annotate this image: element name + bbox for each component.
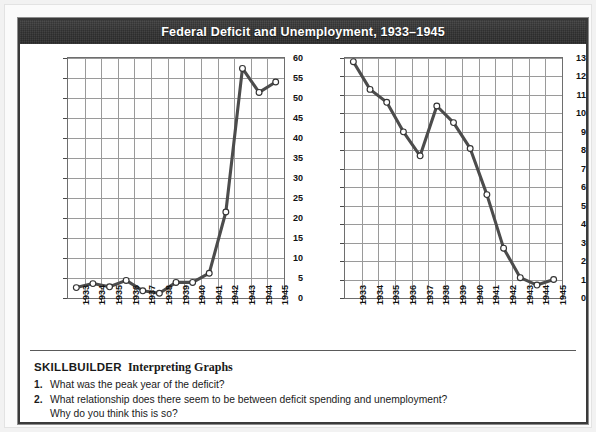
y-axis-tick-mark	[63, 78, 67, 79]
data-point-marker	[223, 209, 229, 215]
skillbuilder-section: SKILLBUILDERInterpreting Graphs 1. What …	[34, 360, 576, 422]
figure-page: Federal Deficit and Unemployment, 1933–1…	[0, 0, 596, 432]
x-axis-tick-label: 1942	[508, 285, 518, 305]
y-axis-tick-label: 60	[264, 53, 303, 63]
y-axis-tick-mark	[340, 113, 344, 114]
y-axis-tick-label: 35	[264, 153, 303, 163]
y-axis-tick-mark	[340, 95, 344, 96]
data-series	[68, 58, 284, 298]
data-point-marker	[123, 278, 129, 284]
chart-federal-deficit: Federal Deficit (in billions of dollars)…	[20, 44, 303, 340]
y-axis-tick-label: 8	[553, 145, 586, 155]
x-axis-tick-label: 1945	[280, 285, 290, 305]
y-axis-tick-mark	[63, 58, 67, 59]
charts-region: Federal Deficit (in billions of dollars)…	[20, 44, 586, 340]
x-axis-tick-label: 1935	[391, 285, 401, 305]
y-axis-tick-mark	[63, 158, 67, 159]
y-axis-tick-label: 4	[553, 219, 586, 229]
y-axis-tick-label: 15	[264, 233, 303, 243]
data-point-marker	[367, 86, 373, 92]
x-axis-tick-label: 1933	[358, 285, 368, 305]
y-axis-tick-mark	[340, 280, 344, 281]
data-point-marker	[434, 103, 440, 109]
question-number: 1.	[34, 378, 50, 392]
y-axis-tick-mark	[340, 298, 344, 299]
question-text: What relationship does there seem to be …	[50, 393, 576, 407]
y-axis-tick-mark	[340, 187, 344, 188]
skillbuilder-question: 2. What relationship does there seem to …	[34, 393, 576, 407]
y-axis-tick-mark	[63, 258, 67, 259]
y-axis-tick-label: 40	[264, 133, 303, 143]
y-axis-tick-mark	[340, 243, 344, 244]
y-axis-tick-mark	[63, 298, 67, 299]
skillbuilder-label: SKILLBUILDER	[34, 361, 122, 373]
y-axis-tick-mark	[340, 261, 344, 262]
outer-frame: Federal Deficit and Unemployment, 1933–1…	[4, 4, 592, 428]
series-line	[76, 68, 275, 293]
x-axis-tick-label: 1938	[164, 285, 174, 305]
data-point-marker	[401, 129, 407, 135]
y-axis-tick-label: 1	[553, 275, 586, 285]
y-axis-tick-mark	[340, 206, 344, 207]
question-continuation: Why do you think this is so?	[50, 407, 576, 421]
x-axis-tick-label: 1941	[491, 285, 501, 305]
data-point-marker	[417, 153, 423, 159]
plot-area	[67, 57, 285, 299]
y-axis-tick-mark	[63, 218, 67, 219]
x-axis-tick-label: 1945	[558, 285, 568, 305]
skillbuilder-question: 1. What was the peak year of the deficit…	[34, 378, 576, 392]
x-axis-tick-label: 1936	[131, 285, 141, 305]
data-point-marker	[240, 66, 246, 72]
x-axis-tick-label: 1944	[264, 285, 274, 305]
data-point-marker	[350, 59, 356, 65]
y-axis-tick-label: 55	[264, 73, 303, 83]
y-axis-tick-label: 10	[553, 108, 586, 118]
series-line	[353, 62, 553, 285]
y-axis-tick-mark	[63, 178, 67, 179]
data-point-marker	[206, 270, 212, 276]
data-point-marker	[517, 275, 523, 281]
y-axis-tick-label: 13	[553, 53, 586, 63]
y-axis-tick-mark	[340, 58, 344, 59]
data-point-marker	[73, 285, 79, 291]
x-axis-tick-label: 1941	[214, 285, 224, 305]
question-text: What was the peak year of the deficit?	[50, 378, 576, 392]
y-axis-tick-label: 9	[553, 127, 586, 137]
x-axis-tick-label: 1940	[475, 285, 485, 305]
question-number: 2.	[34, 393, 50, 407]
y-axis-tick-label: 30	[264, 173, 303, 183]
y-axis-tick-mark	[63, 238, 67, 239]
y-axis-tick-label: 20	[264, 213, 303, 223]
chart-unemployment: Unemployment (in millions of people)0123…	[303, 44, 586, 340]
y-axis-tick-mark	[340, 224, 344, 225]
y-axis-tick-mark	[63, 278, 67, 279]
y-axis-tick-mark	[340, 132, 344, 133]
data-point-marker	[107, 284, 113, 290]
x-axis-tick-label: 1940	[197, 285, 207, 305]
y-axis-tick-mark	[63, 198, 67, 199]
y-axis-tick-mark	[63, 138, 67, 139]
y-axis-tick-label: 50	[264, 93, 303, 103]
y-axis-tick-mark	[340, 76, 344, 77]
data-point-marker	[156, 290, 162, 296]
y-axis-tick-label: 12	[553, 71, 586, 81]
x-axis-tick-label: 1936	[408, 285, 418, 305]
data-point-marker	[467, 146, 473, 152]
section-divider	[30, 350, 576, 351]
data-point-marker	[384, 99, 390, 105]
y-axis-tick-label: 2	[553, 256, 586, 266]
plot-area	[344, 57, 563, 299]
y-axis-tick-label: 5	[553, 201, 586, 211]
y-axis-tick-label: 6	[553, 182, 586, 192]
x-axis-tick-label: 1933	[81, 285, 91, 305]
x-axis-tick-label: 1937	[147, 285, 157, 305]
y-axis-tick-label: 25	[264, 193, 303, 203]
x-axis-tick-label: 1942	[230, 285, 240, 305]
y-axis-tick-mark	[340, 169, 344, 170]
page-title: Federal Deficit and Unemployment, 1933–1…	[161, 25, 445, 39]
y-axis-tick-label: 5	[264, 273, 303, 283]
data-point-marker	[451, 120, 457, 126]
data-point-marker	[256, 90, 262, 96]
x-axis-tick-label: 1935	[114, 285, 124, 305]
x-axis-tick-label: 1934	[97, 285, 107, 305]
